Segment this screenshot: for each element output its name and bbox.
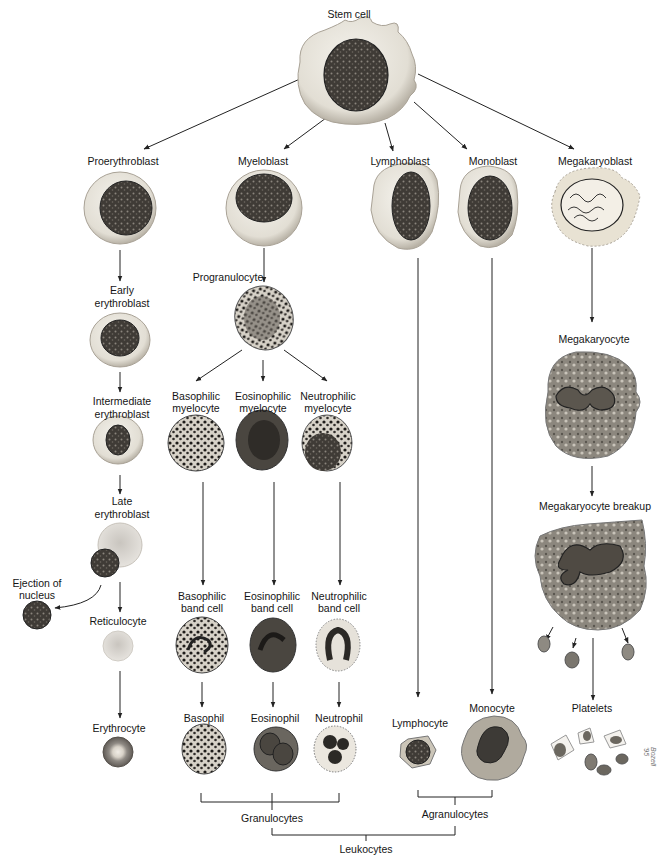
platelet-bud-1 bbox=[538, 636, 550, 652]
label-agranulocytes: Agranulocytes bbox=[422, 808, 489, 821]
cell-intermediate-erythroblast bbox=[93, 416, 143, 464]
cell-megakaryocyte bbox=[545, 352, 640, 459]
label-myeloblast: Myeloblast bbox=[238, 155, 288, 168]
label-early-erythroblast-2: erythroblast bbox=[95, 297, 150, 310]
cell-ejected-nucleus bbox=[23, 601, 51, 629]
cell-basophilic-myelocyte bbox=[168, 415, 224, 471]
artist-signature: Bozell '95 bbox=[643, 747, 657, 771]
cell-eosinophil bbox=[254, 727, 298, 771]
label-stem-cell: Stem cell bbox=[327, 8, 370, 21]
label-monoblast: Monoblast bbox=[469, 155, 517, 168]
cell-neutrophil bbox=[314, 726, 356, 772]
label-proerythroblast: Proerythroblast bbox=[87, 155, 158, 168]
label-neutrophilic-myelocyte-2: myelocyte bbox=[304, 402, 351, 415]
cell-basophilic-band-cell bbox=[176, 617, 228, 673]
label-erythrocyte: Erythrocyte bbox=[92, 722, 145, 735]
label-leukocytes: Leukocytes bbox=[339, 843, 392, 856]
cell-early-erythroblast bbox=[90, 313, 150, 367]
cell-stem-cell bbox=[298, 17, 416, 125]
label-lymphocyte: Lymphocyte bbox=[392, 717, 448, 730]
label-granulocytes: Granulocytes bbox=[241, 812, 303, 825]
label-basophilic-band-cell-2: band cell bbox=[181, 602, 223, 615]
label-intermediate-erythroblast-2: erythroblast bbox=[95, 408, 150, 421]
label-megakaryocyte-breakup: Megakaryocyte breakup bbox=[539, 500, 651, 513]
cell-megakaryoblast bbox=[552, 168, 640, 247]
label-eosinophilic-myelocyte-2: myelocyte bbox=[239, 402, 286, 415]
cell-progranulocyte bbox=[228, 280, 301, 357]
label-progranulocyte: Progranulocyte bbox=[193, 271, 264, 284]
cell-monocyte bbox=[461, 716, 526, 780]
cell-lymphocyte bbox=[400, 736, 436, 768]
label-neutrophilic-band-cell-1: Neutrophilic bbox=[311, 590, 366, 603]
label-megakaryocyte: Megakaryocyte bbox=[558, 333, 629, 346]
label-eosinophilic-band-cell-1: Eosinophilic bbox=[244, 590, 300, 603]
cell-basophil bbox=[182, 724, 226, 774]
cell-eosinophilic-myelocyte bbox=[236, 410, 288, 470]
label-eosinophil: Eosinophil bbox=[251, 712, 299, 725]
label-megakaryoblast: Megakaryoblast bbox=[558, 155, 632, 168]
label-reticulocyte: Reticulocyte bbox=[89, 615, 146, 628]
label-neutrophilic-band-cell-2: band cell bbox=[318, 602, 360, 615]
cell-proerythroblast bbox=[84, 172, 156, 244]
label-ejection-of-nucleus-2: nucleus bbox=[19, 589, 55, 602]
label-intermediate-erythroblast-1: Intermediate bbox=[93, 395, 151, 408]
cell-neutrophilic-myelocyte bbox=[302, 415, 352, 471]
cell-neutrophilic-band-cell bbox=[316, 619, 360, 671]
label-eosinophilic-band-cell-2: band cell bbox=[251, 602, 293, 615]
label-monocyte: Monocyte bbox=[469, 702, 515, 715]
cell-reticulocyte bbox=[103, 631, 133, 661]
platelet-bud-3 bbox=[622, 644, 634, 660]
cell-platelets bbox=[551, 728, 628, 775]
cell-monoblast bbox=[458, 166, 518, 248]
label-neutrophilic-myelocyte-1: Neutrophilic bbox=[300, 390, 355, 403]
cell-myeloblast bbox=[226, 170, 302, 246]
cell-megakaryocyte-breakup bbox=[535, 520, 646, 630]
cell-lymphoblast bbox=[371, 163, 439, 249]
cell-late-erythroblast bbox=[91, 523, 142, 577]
platelet-bud-2 bbox=[565, 652, 579, 668]
label-basophilic-myelocyte-1: Basophilic bbox=[172, 390, 220, 403]
label-platelets: Platelets bbox=[572, 702, 612, 715]
label-lymphoblast: Lymphoblast bbox=[370, 155, 429, 168]
cell-eosinophilic-band-cell bbox=[250, 618, 296, 672]
label-early-erythroblast-1: Early bbox=[110, 284, 134, 297]
label-late-erythroblast-2: erythroblast bbox=[95, 508, 150, 521]
label-basophil: Basophil bbox=[184, 712, 224, 725]
label-eosinophilic-myelocyte-1: Eosinophilic bbox=[235, 390, 291, 403]
label-late-erythroblast-1: Late bbox=[112, 495, 132, 508]
label-neutrophil: Neutrophil bbox=[315, 712, 363, 725]
label-basophilic-myelocyte-2: myelocyte bbox=[172, 402, 219, 415]
label-ejection-of-nucleus-1: Ejection of bbox=[12, 577, 61, 590]
cell-erythrocyte bbox=[103, 737, 133, 767]
label-basophilic-band-cell-1: Basophilic bbox=[178, 590, 226, 603]
